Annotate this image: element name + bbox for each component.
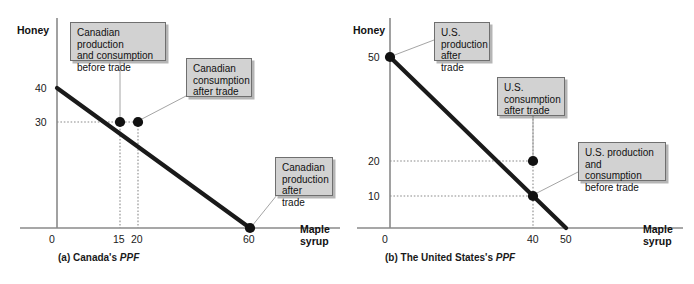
- us-leader-before-trade: [535, 172, 578, 194]
- canada-xtick-20: 20: [131, 234, 143, 245]
- us-point-production-after-trade: [385, 52, 395, 62]
- us-leader-production: [392, 40, 434, 56]
- canada-caption-italic: PPF: [120, 252, 139, 263]
- canada-point-production-after-trade: [245, 223, 255, 233]
- us-caption-prefix: (b) The United States's: [385, 252, 496, 263]
- callout-canada-consumption-after-trade: Canadian consumption after trade: [186, 58, 252, 97]
- callout-us-before-trade: U.S. production and consumption before t…: [578, 142, 666, 181]
- canada-caption-prefix: (a) Canada's: [58, 252, 120, 263]
- us-y-axis-label: Honey: [353, 25, 385, 37]
- us-origin-label: 0: [382, 234, 388, 245]
- canada-x-axis-label-line1: Maple: [300, 224, 330, 236]
- callout-canada-before-trade: Canadian production and consumption befo…: [70, 22, 166, 61]
- canada-ppf-curve: [57, 88, 250, 228]
- canada-point-before-trade: [115, 117, 125, 127]
- us-ytick-10: 10: [368, 191, 380, 202]
- us-ytick-20: 20: [368, 156, 380, 167]
- canada-leader-production: [252, 195, 277, 226]
- us-xtick-40: 40: [527, 234, 539, 245]
- us-xtick-50: 50: [560, 234, 572, 245]
- canada-origin-label: 0: [49, 234, 55, 245]
- us-caption-italic: PPF: [496, 252, 515, 263]
- canada-ytick-30: 30: [35, 117, 47, 128]
- canada-leader-consumption: [140, 96, 186, 120]
- us-point-consumption-after-trade: [528, 156, 538, 166]
- canada-ytick-40: 40: [35, 83, 47, 94]
- us-caption: (b) The United States's PPF: [385, 252, 515, 263]
- callout-us-consumption-after-trade: U.S. consumption after trade: [497, 77, 565, 116]
- us-ytick-50: 50: [368, 52, 380, 63]
- canada-y-axis-label: Honey: [17, 25, 49, 37]
- panel-us-ppf: Honey Maple syrup 50 20 10 0 40 50 U.S. …: [347, 0, 694, 284]
- callout-us-production-after-trade: U.S. production after trade: [434, 22, 490, 61]
- us-point-before-trade: [528, 191, 538, 201]
- canada-point-consumption-after-trade: [133, 117, 143, 127]
- canada-xtick-15: 15: [113, 234, 125, 245]
- panel-canada-ppf: Honey Maple syrup 40 30 0 15 20 60 Canad…: [0, 0, 347, 284]
- callout-canada-production-after-trade: Canadian production after trade: [275, 157, 333, 196]
- canada-x-axis-label-line2: syrup: [300, 236, 329, 248]
- us-x-axis-label-line2: syrup: [643, 236, 672, 248]
- canada-xtick-60: 60: [243, 234, 255, 245]
- canada-caption: (a) Canada's PPF: [58, 252, 139, 263]
- us-x-axis-label-line1: Maple: [643, 224, 673, 236]
